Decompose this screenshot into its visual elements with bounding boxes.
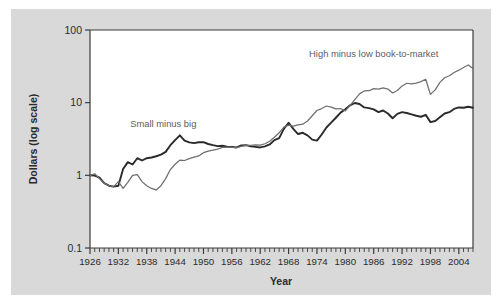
y-axis-tick-labels: 0.1110100 (64, 24, 82, 254)
y-tick-label: 1 (76, 169, 82, 181)
x-tick-label: 1980 (335, 256, 357, 267)
plot-area-background (90, 30, 473, 248)
x-tick-label: 1944 (164, 256, 186, 267)
y-axis-title: Dollars (log scale) (27, 94, 39, 184)
y-tick-label: 100 (64, 24, 82, 36)
x-tick-label: 1998 (420, 256, 442, 267)
x-tick-label: 1926 (79, 256, 101, 267)
x-tick-label: 1950 (193, 256, 215, 267)
x-tick-label: 1992 (391, 256, 413, 267)
x-tick-label: 1986 (363, 256, 385, 267)
x-tick-label: 1938 (136, 256, 158, 267)
y-tick-label: 0.1 (67, 242, 82, 254)
x-tick-label: 1962 (249, 256, 271, 267)
x-tick-label: 2004 (448, 256, 470, 267)
x-axis-title: Year (270, 275, 292, 287)
screenshot-root: 0.1110100 192619321938194419501956196219… (0, 0, 502, 304)
line-chart: 0.1110100 192619321938194419501956196219… (11, 9, 491, 295)
y-tick-label: 10 (70, 96, 82, 108)
x-axis-tick-labels: 1926193219381944195019561962196819741980… (79, 256, 470, 267)
x-tick-label: 1956 (221, 256, 243, 267)
x-tick-label: 1974 (306, 256, 328, 267)
high-minus-low-label: High minus low book-to-market (309, 48, 439, 59)
small-minus-big-label: Small minus big (130, 118, 196, 129)
x-tick-label: 1968 (278, 256, 300, 267)
figure-panel: 0.1110100 192619321938194419501956196219… (11, 9, 491, 295)
x-tick-label: 1932 (108, 256, 130, 267)
